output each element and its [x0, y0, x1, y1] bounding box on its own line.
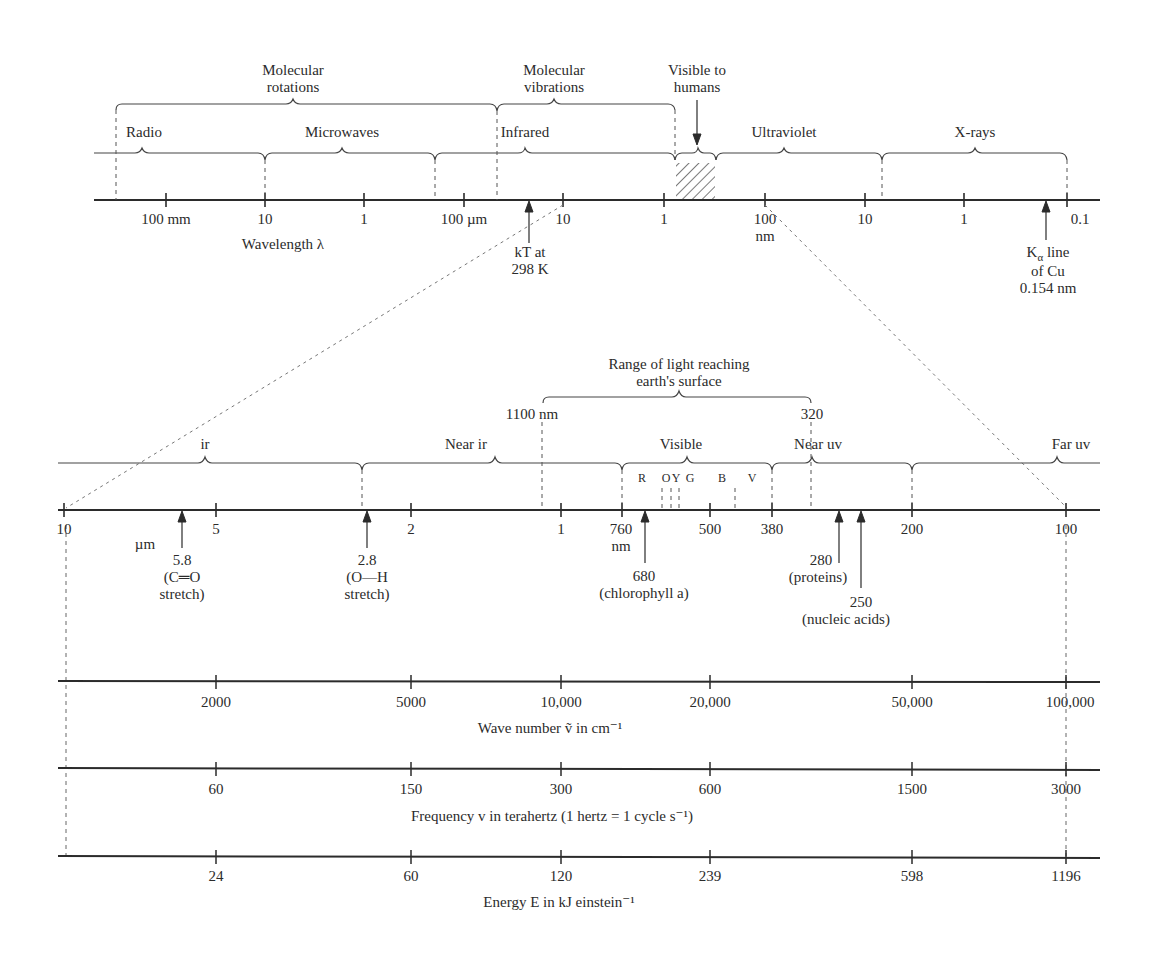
- tick-0-1nm: 0.1: [1071, 211, 1090, 228]
- energy-tick-239: 239: [699, 868, 722, 885]
- color-red: R: [638, 470, 646, 487]
- energy-tick-24: 24: [209, 868, 224, 885]
- wavelength-axis-label: Wavelength λ: [242, 236, 324, 253]
- tick-1nm: 1: [960, 211, 968, 228]
- region-x-rays: X-rays: [955, 124, 996, 141]
- region-near-ir: Near ir: [445, 436, 487, 453]
- energy-axis: [58, 850, 1100, 864]
- frequency-tick-600: 600: [699, 781, 722, 798]
- kT-arrow: [525, 201, 533, 243]
- range-end-label: 320: [801, 406, 824, 423]
- annotation-280-value: 280: [810, 552, 833, 569]
- tick-100nm-mid: 100: [1055, 521, 1078, 538]
- label-visible-to-humans: Visible to humans: [668, 62, 726, 96]
- energy-tick-120: 120: [550, 868, 573, 885]
- tick-5um: 5: [212, 521, 220, 538]
- frequency-tick-150: 150: [400, 781, 423, 798]
- color-blue: B: [718, 470, 726, 487]
- wavenumber-axis-label: Wave number ṽ in cm⁻¹: [478, 720, 623, 737]
- annotation-250-desc: (nucleic acids): [802, 611, 890, 628]
- kalpha-subscript: α: [1037, 251, 1043, 263]
- wave-number-axis: [58, 675, 1100, 689]
- wavenumber-tick-2000: 2000: [201, 694, 231, 711]
- label-molecular-rotations: Molecular rotations: [262, 62, 324, 96]
- tick-100nm: 100: [754, 211, 777, 228]
- frequency-axis-label: Frequency v in terahertz (1 hertz = 1 cy…: [411, 808, 693, 825]
- annotation-kalpha-detail: of Cu 0.154 nm: [1020, 263, 1077, 297]
- tick-10um: 10: [556, 211, 571, 228]
- tick-10um-mid: 10: [57, 521, 72, 538]
- annotation-kT: kT at 298 K: [511, 244, 548, 278]
- frequency-tick-300: 300: [550, 781, 573, 798]
- region-radio: Radio: [126, 124, 162, 141]
- energy-tick-598: 598: [901, 868, 924, 885]
- tick-2um: 2: [407, 521, 415, 538]
- kalpha-arrow: [1042, 201, 1050, 240]
- wavenumber-tick-10000: 10,000: [540, 694, 581, 711]
- annotation-280-desc: (proteins): [789, 569, 847, 586]
- tick-100um: 100 µm: [441, 211, 488, 228]
- annotation-680-value: 680: [633, 568, 656, 585]
- wavenumber-tick-100000: 100,000: [1046, 694, 1095, 711]
- tick-unit-nm: nm: [755, 228, 774, 245]
- region-brackets-middle: [58, 391, 1100, 470]
- label-molecular-vibrations: Molecular vibrations: [523, 62, 585, 96]
- region-visible: Visible: [660, 436, 702, 453]
- frequency-tick-1500: 1500: [897, 781, 927, 798]
- region-infrared: Infrared: [501, 124, 549, 141]
- energy-tick-1196: 1196: [1051, 868, 1080, 885]
- tick-100mm: 100 mm: [141, 211, 191, 228]
- color-green: G: [686, 470, 695, 487]
- energy-axis-label: Energy E in kJ einstein⁻¹: [483, 894, 634, 911]
- range-of-light-label: Range of light reaching earth's surface: [608, 356, 749, 390]
- tick-1mm: 1: [360, 211, 368, 228]
- annotation-2-8-desc: (O—H stretch): [345, 569, 390, 603]
- energy-tick-60: 60: [404, 868, 419, 885]
- tick-1um: 1: [660, 211, 668, 228]
- tick-380nm: 380: [761, 521, 784, 538]
- annotation-5-8-desc: (C═O stretch): [160, 569, 205, 603]
- kalpha-K: K: [1027, 244, 1038, 260]
- color-yellow: Y: [672, 470, 681, 487]
- wavelength-axis-middle: [58, 503, 1100, 517]
- region-near-uv: Near uv: [794, 436, 842, 453]
- annotation-5-8-value: 5.8: [173, 552, 192, 569]
- frequency-tick-60: 60: [209, 781, 224, 798]
- bottom-guide-lines: [66, 525, 1066, 856]
- wavenumber-tick-5000: 5000: [396, 694, 426, 711]
- visible-arrow: [693, 100, 701, 145]
- tick-500nm: 500: [699, 521, 722, 538]
- region-ultraviolet: Ultraviolet: [752, 124, 817, 141]
- region-ir: ir: [200, 436, 209, 453]
- tick-10nm: 10: [858, 211, 873, 228]
- tick-1um-mid: 1: [557, 521, 565, 538]
- color-violet: V: [748, 470, 757, 487]
- region-brackets-top: [94, 99, 1067, 160]
- region-far-uv: Far uv: [1052, 436, 1091, 453]
- region-dividers-top: [116, 110, 1067, 200]
- visible-band-hatch: [676, 163, 715, 199]
- kalpha-line: line: [1047, 244, 1070, 260]
- tick-10mm: 10: [258, 211, 273, 228]
- range-start-label: 1100 nm: [506, 406, 558, 423]
- wavenumber-tick-20000: 20,000: [689, 694, 730, 711]
- tick-unit-nm-mid: nm: [611, 538, 630, 555]
- annotation-2-8-value: 2.8: [358, 552, 377, 569]
- annotation-250-value: 250: [850, 594, 873, 611]
- wavelength-axis-top: [94, 193, 1100, 207]
- annotation-680-desc: (chlorophyll a): [599, 585, 689, 602]
- region-microwaves: Microwaves: [305, 124, 379, 141]
- tick-200nm: 200: [901, 521, 924, 538]
- tick-760nm: 760: [610, 521, 633, 538]
- frequency-tick-3000: 3000: [1051, 781, 1081, 798]
- color-orange: O: [662, 470, 671, 487]
- unit-um-label: µm: [135, 536, 155, 553]
- wavenumber-tick-50000: 50,000: [891, 694, 932, 711]
- frequency-axis: [58, 762, 1100, 776]
